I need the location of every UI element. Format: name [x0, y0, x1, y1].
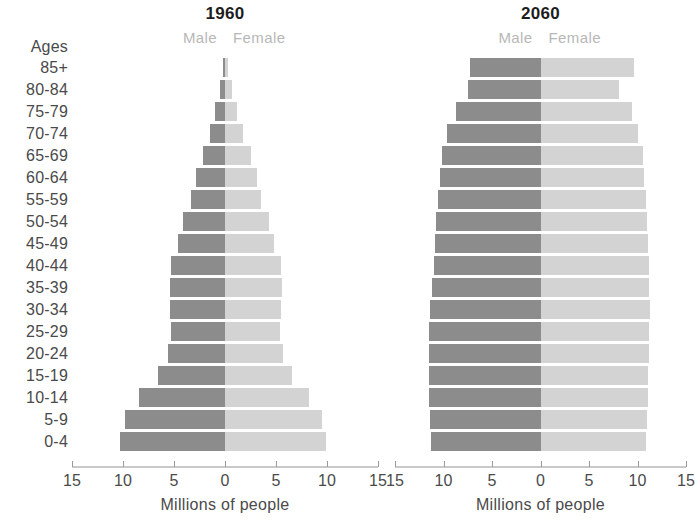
x-axis-title-1960: Millions of people	[72, 496, 378, 514]
bar-row	[72, 409, 378, 431]
axis-tick-label: 15	[63, 472, 81, 490]
age-tick-25to29: 25-29	[0, 321, 72, 343]
axis-tick-mark	[276, 461, 277, 467]
x-axis-1960	[72, 466, 378, 468]
bar-row	[395, 365, 686, 387]
axis-tick-label: 0	[220, 472, 229, 490]
age-tick-80to84: 80-84	[0, 79, 72, 101]
bar-row	[72, 123, 378, 145]
panel-title-1960: 1960	[72, 4, 378, 24]
bar-row	[72, 79, 378, 101]
female-bar	[225, 234, 274, 253]
male-bar	[215, 102, 225, 121]
age-tick-65to69: 65-69	[0, 145, 72, 167]
female-bar	[225, 58, 228, 77]
female-bar	[225, 278, 282, 297]
male-bar	[170, 300, 225, 319]
bar-row	[72, 277, 378, 299]
female-bar	[225, 124, 243, 143]
male-bar	[183, 212, 225, 231]
axis-tick-label: 5	[271, 472, 280, 490]
female-bar	[541, 124, 638, 143]
male-bar	[429, 388, 541, 407]
bar-row	[395, 299, 686, 321]
bar-row	[395, 189, 686, 211]
male-bar	[429, 366, 541, 385]
panel-2060: 2060 Male Female Millions of people 1510…	[395, 0, 686, 523]
panel-1960: 1960 Male Female Millions of people 1510…	[72, 0, 378, 523]
x-axis-2060	[395, 466, 686, 468]
male-bar	[435, 234, 541, 253]
legend-male-label: Male	[498, 29, 532, 46]
male-bar	[178, 234, 225, 253]
age-tick-55to59: 55-59	[0, 189, 72, 211]
bar-row	[72, 365, 378, 387]
panel-title-2060: 2060	[395, 4, 686, 24]
age-tick-5to9: 5-9	[0, 409, 72, 431]
female-bar	[541, 102, 632, 121]
age-tick-15to19: 15-19	[0, 365, 72, 387]
female-bar	[541, 190, 647, 209]
bar-row	[395, 343, 686, 365]
bar-row	[72, 189, 378, 211]
age-tick-list: 85+80-8475-7970-7465-6960-6455-5950-5445…	[0, 57, 72, 453]
bar-row	[72, 387, 378, 409]
axis-tick-label: 5	[487, 472, 496, 490]
bar-row	[72, 255, 378, 277]
bar-row	[72, 343, 378, 365]
male-bar	[168, 344, 225, 363]
axis-tick-label: 5	[169, 472, 178, 490]
bar-row	[395, 167, 686, 189]
bar-row	[72, 321, 378, 343]
female-bar	[225, 168, 257, 187]
axis-tick-label: 10	[114, 472, 132, 490]
female-bar	[225, 432, 326, 451]
female-bar	[541, 256, 650, 275]
female-bar	[225, 146, 251, 165]
male-bar	[468, 80, 541, 99]
bar-row	[395, 409, 686, 431]
bar-row	[72, 233, 378, 255]
bar-row	[72, 211, 378, 233]
female-bar	[541, 278, 650, 297]
bar-row	[395, 321, 686, 343]
bar-row	[395, 211, 686, 233]
axis-tick-mark	[378, 461, 379, 467]
female-bar	[225, 410, 322, 429]
bar-row	[395, 145, 686, 167]
age-tick-20to24: 20-24	[0, 343, 72, 365]
female-bar	[541, 146, 644, 165]
age-tick-50to54: 50-54	[0, 211, 72, 233]
bar-row	[395, 387, 686, 409]
bar-row	[395, 123, 686, 145]
axis-tick-mark	[123, 461, 124, 467]
age-tick-45to49: 45-49	[0, 233, 72, 255]
axis-tick-label: 10	[434, 472, 452, 490]
female-bar	[541, 432, 647, 451]
axis-tick-mark	[174, 461, 175, 467]
age-tick-10to14: 10-14	[0, 387, 72, 409]
male-bar	[436, 212, 541, 231]
female-bar	[541, 234, 649, 253]
age-axis-labels: Ages 85+80-8475-7970-7465-6960-6455-5950…	[0, 36, 72, 453]
male-bar	[191, 190, 225, 209]
male-bar	[430, 300, 541, 319]
female-bar	[541, 58, 634, 77]
male-bar	[170, 278, 225, 297]
female-bar	[541, 366, 649, 385]
female-bar	[225, 388, 309, 407]
female-bar	[225, 300, 281, 319]
axis-tick-label: 0	[536, 472, 545, 490]
plot-area-2060	[395, 57, 686, 466]
plot-area-1960	[72, 57, 378, 466]
male-bar	[203, 146, 225, 165]
age-tick-75to79: 75-79	[0, 101, 72, 123]
bar-row	[395, 79, 686, 101]
axis-tick-mark	[72, 461, 73, 467]
female-bar	[225, 366, 292, 385]
legend-male-label: Male	[183, 29, 217, 46]
axis-tick-mark	[541, 461, 542, 467]
axis-tick-mark	[225, 461, 226, 467]
male-bar	[125, 410, 225, 429]
age-tick-0to4: 0-4	[0, 431, 72, 453]
